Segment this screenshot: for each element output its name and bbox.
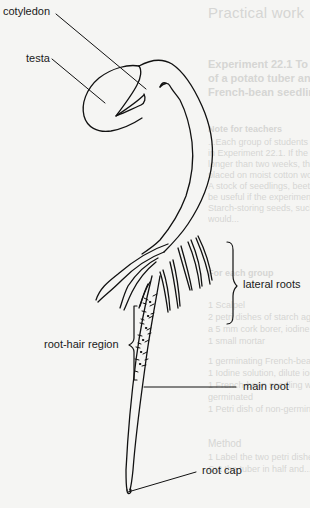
- label-cotyledon: cotyledon: [3, 5, 50, 17]
- label-root-hair-region: root-hair region: [44, 338, 119, 350]
- cotyledon-outline: [116, 66, 145, 116]
- lateral-root: [160, 272, 168, 312]
- lateral-root: [181, 246, 192, 290]
- label-lateral-roots: lateral roots: [243, 278, 300, 290]
- label-main-root: main root: [243, 380, 289, 392]
- lateral-roots-brace: [227, 242, 237, 324]
- textbook-page: Practical work Experiment 22.1 To compar…: [0, 0, 310, 508]
- label-testa: testa: [26, 52, 50, 64]
- shoot-outer: [139, 60, 213, 252]
- root-cap-leader-line: [128, 472, 196, 492]
- label-root-cap: root cap: [202, 464, 242, 476]
- testa-leader-line: [52, 59, 105, 103]
- seedling-drawing: [0, 0, 310, 508]
- testa-outline: [83, 66, 142, 132]
- root-hair-region-brace: [129, 306, 137, 380]
- cotyledon-leader-line: [56, 14, 146, 89]
- lateral-root: [170, 262, 178, 308]
- lateral-root: [124, 262, 156, 310]
